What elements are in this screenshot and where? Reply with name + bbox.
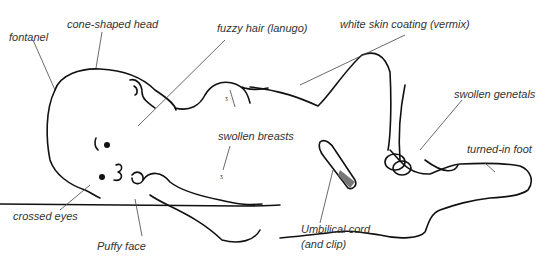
label-cone-shaped-head: cone-shaped head bbox=[67, 18, 158, 31]
label-swollen-breasts: swollen breasts bbox=[218, 130, 294, 143]
label-lanugo: fuzzy hair (lanugo) bbox=[217, 22, 308, 35]
newborn-diagram: ʒ ʒ fontanel cone-shaped head fuzzy hair… bbox=[0, 0, 557, 268]
svg-text:ʒ: ʒ bbox=[220, 173, 223, 179]
svg-text:ʒ: ʒ bbox=[225, 95, 228, 101]
label-crossed-eyes: crossed eyes bbox=[13, 210, 78, 223]
label-turned-in-foot: turned-in foot bbox=[467, 143, 532, 156]
label-umbilical-cord: Umbilical cord bbox=[301, 223, 370, 236]
label-swollen-genetals: swollen genetals bbox=[454, 88, 535, 101]
label-puffy-face: Puffy face bbox=[97, 240, 146, 253]
label-fontanel: fontanel bbox=[9, 31, 48, 44]
label-vermix: white skin coating (vermix) bbox=[340, 18, 470, 31]
label-umbilical-clip: (and clip) bbox=[301, 238, 346, 251]
